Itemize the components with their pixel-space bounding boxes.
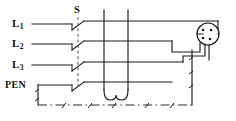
label-line-1: L1 bbox=[12, 18, 24, 29]
label-l1-sub: 1 bbox=[20, 22, 24, 31]
label-l3-base: L bbox=[12, 58, 20, 70]
label-switch-s: S bbox=[74, 5, 80, 16]
label-l3-sub: 3 bbox=[20, 63, 24, 72]
schematic-diagram: L1 L2 L3 PEN S bbox=[0, 0, 236, 121]
label-line-2: L2 bbox=[12, 38, 24, 49]
schematic-canvas bbox=[0, 0, 236, 121]
label-pen: PEN bbox=[5, 80, 26, 90]
socket-leg-l3 bbox=[183, 44, 205, 62]
socket-pin-3 bbox=[202, 37, 205, 40]
socket-pin-4 bbox=[209, 38, 212, 41]
load-loop-u bbox=[104, 90, 128, 100]
label-l1-base: L bbox=[12, 17, 20, 29]
label-l2-base: L bbox=[12, 37, 20, 49]
label-l2-sub: 2 bbox=[20, 42, 24, 51]
label-line-3: L3 bbox=[12, 59, 24, 70]
socket-pin-2 bbox=[210, 29, 213, 32]
socket-leg-l2 bbox=[172, 41, 200, 52]
socket-pin-1 bbox=[202, 29, 205, 32]
